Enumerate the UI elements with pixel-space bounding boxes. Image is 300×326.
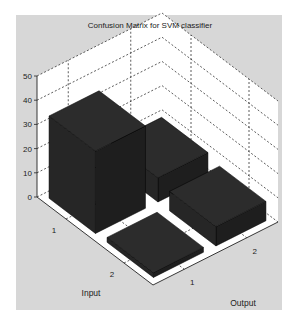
x-axis-label: Input	[82, 288, 102, 298]
z-tick-label: 0	[28, 193, 33, 202]
y-axis-label: Output	[230, 298, 256, 308]
chart-title: Confusion Matrix for SVM classifier	[88, 21, 213, 30]
output-tick-label: 2	[253, 247, 258, 256]
z-tick-label: 50	[23, 72, 32, 81]
z-tick-label: 30	[23, 120, 32, 129]
input-tick-label: 2	[110, 270, 115, 279]
z-tick-label: 10	[23, 169, 32, 178]
input-tick-label: 1	[52, 226, 57, 235]
output-tick-label: 1	[190, 278, 195, 287]
z-tick-label: 40	[23, 96, 32, 105]
confusion-matrix-3d-chart: Confusion Matrix for SVM classifier Inpu…	[0, 0, 300, 326]
z-tick-label: 20	[23, 145, 32, 154]
